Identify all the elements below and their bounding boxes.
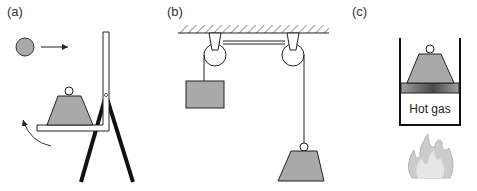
flame-icon: [408, 134, 453, 178]
hot-gas-label: Hot gas: [409, 102, 450, 116]
weight-ring: [65, 87, 73, 95]
panel-c: (c) Hot gas: [352, 4, 460, 178]
ball-icon: [16, 38, 34, 56]
panel-a: (a): [7, 4, 133, 182]
weight-c: [407, 54, 454, 83]
pivot-icon: [104, 93, 107, 96]
physics-diagram: (a) (b): [0, 0, 477, 191]
tripod-leg-right: [106, 95, 133, 182]
weight-ring: [426, 45, 434, 53]
panel-a-label: (a): [7, 4, 23, 19]
block-weight: [186, 81, 224, 108]
panel-b: (b): [167, 4, 329, 181]
panel-c-label: (c): [352, 4, 367, 19]
panel-b-label: (b): [167, 4, 183, 19]
rotation-arrow-icon: [23, 120, 51, 146]
piston: [401, 83, 459, 93]
weight-ring: [300, 143, 308, 151]
weight-b: [278, 151, 324, 181]
ceiling-hatch: [179, 25, 329, 33]
weight-a: [47, 96, 93, 125]
